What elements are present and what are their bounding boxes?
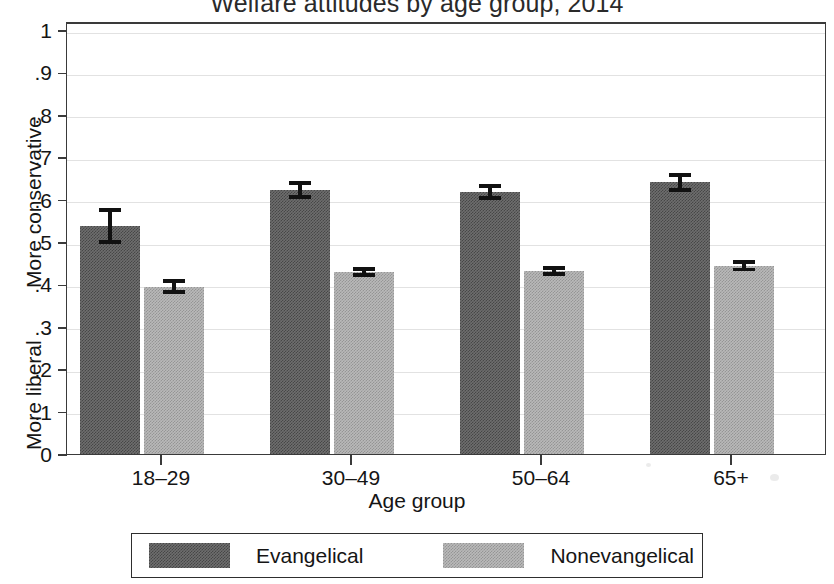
legend-swatch-nonevangelical	[443, 543, 524, 568]
legend-swatch-evangelical	[149, 543, 230, 568]
error-bar-cap-bottom	[289, 195, 311, 199]
error-bar-cap-bottom	[669, 188, 691, 192]
error-bar-cap-bottom	[353, 273, 375, 277]
x-axis-label: Age group	[0, 489, 834, 513]
y-tick-label: .1	[0, 401, 52, 425]
chart-title: Welfare attitudes by age group, 2014	[0, 0, 834, 18]
gridline	[67, 202, 825, 203]
legend-label-evangelical: Evangelical	[256, 544, 363, 568]
gridline	[67, 75, 825, 76]
error-bar-cap-top	[163, 279, 185, 283]
y-tick-label: 0	[0, 443, 52, 467]
error-bar-cap-top	[669, 173, 691, 177]
error-bar-cap-bottom	[733, 268, 755, 272]
error-bar-cap-bottom	[543, 272, 565, 276]
x-tick-mark	[730, 455, 732, 465]
bar-evangelical	[460, 192, 520, 455]
bar-evangelical	[650, 182, 710, 455]
error-bar-cap-bottom	[99, 240, 121, 244]
error-bar	[524, 266, 584, 275]
chart-legend: Evangelical Nonevangelical	[131, 533, 703, 578]
bar-evangelical	[80, 226, 140, 455]
y-tick-label: .4	[0, 273, 52, 297]
gridline	[67, 33, 825, 34]
error-bar	[714, 260, 774, 271]
chart-root: Welfare attitudes by age group, 2014 Mor…	[0, 0, 834, 584]
plot-area	[66, 22, 826, 455]
y-tick-label: .8	[0, 104, 52, 128]
error-bar-cap-top	[543, 266, 565, 270]
error-bar-cap-top	[353, 267, 375, 271]
error-bar-cap-top	[99, 208, 121, 212]
error-bar-cap-bottom	[479, 196, 501, 200]
x-tick-label: 18–29	[132, 466, 190, 490]
bar-nonevangelical	[334, 272, 394, 455]
bar-nonevangelical	[524, 271, 584, 455]
error-bar-stem	[108, 208, 111, 244]
error-bar-cap-top	[733, 260, 755, 264]
bar-nonevangelical	[714, 266, 774, 455]
y-tick-label: .7	[0, 146, 52, 170]
y-tick-label: 1	[0, 19, 52, 43]
gridline	[67, 117, 825, 118]
x-tick-label: 30–49	[322, 466, 380, 490]
x-tick-mark	[160, 455, 162, 465]
x-tick-label: 65+	[713, 466, 749, 490]
bar-evangelical	[270, 190, 330, 455]
bar-nonevangelical	[144, 287, 204, 455]
error-bar-cap-top	[479, 184, 501, 188]
legend-label-nonevangelical: Nonevangelical	[550, 544, 694, 568]
y-tick-label: .9	[0, 61, 52, 85]
error-bar-cap-top	[289, 181, 311, 185]
error-bar	[334, 267, 394, 276]
gridline	[67, 245, 825, 246]
x-tick-label: 50–64	[512, 466, 570, 490]
gridline	[67, 160, 825, 161]
legend-item-evangelical[interactable]: Evangelical	[149, 534, 363, 577]
error-bar	[80, 208, 140, 244]
x-tick-mark	[540, 455, 542, 465]
error-bar	[144, 279, 204, 293]
legend-item-nonevangelical[interactable]: Nonevangelical	[443, 534, 694, 577]
y-tick-label: .3	[0, 316, 52, 340]
y-tick-label: .5	[0, 231, 52, 255]
x-tick-mark	[350, 455, 352, 465]
error-bar	[460, 184, 520, 199]
y-tick-label: .6	[0, 189, 52, 213]
scan-speck	[770, 474, 779, 481]
error-bar	[270, 181, 330, 199]
error-bar	[650, 173, 710, 192]
y-tick-label: .2	[0, 358, 52, 382]
error-bar-cap-bottom	[163, 290, 185, 294]
y-axis-label-liberal: More liberal	[22, 340, 46, 450]
scan-speck	[646, 463, 651, 467]
